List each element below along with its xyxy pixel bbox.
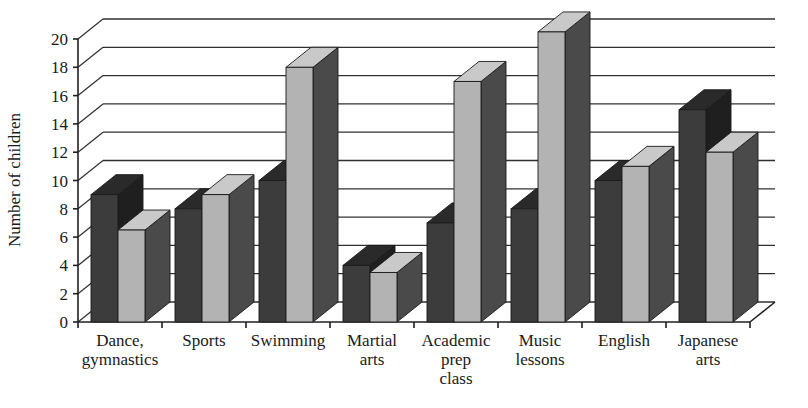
y-tick-label: 6 — [60, 228, 69, 247]
bar-front-face — [91, 195, 118, 322]
bar-series-light — [622, 146, 674, 322]
gridline-connector — [78, 104, 103, 124]
gridline-connector — [78, 76, 103, 96]
y-tick-label: 14 — [51, 115, 69, 134]
x-category-label: arts — [696, 350, 721, 369]
y-tick-label: 12 — [51, 143, 68, 162]
bar-front-face — [511, 209, 538, 322]
y-axis-title: Number of children — [5, 112, 24, 247]
bar-front-face — [679, 110, 706, 322]
bar-front-face — [427, 223, 454, 322]
x-category-label: class — [439, 369, 472, 388]
bar-front-face — [343, 265, 370, 322]
x-category-label: gymnastics — [82, 350, 159, 369]
y-tick-label: 18 — [51, 58, 68, 77]
bar-series-light — [118, 210, 170, 322]
x-category-label: Japanese — [678, 331, 738, 350]
y-tick-label: 10 — [51, 172, 68, 191]
x-category-label: Dance, — [96, 331, 144, 350]
x-category-label: Swimming — [251, 331, 326, 350]
bar-front-face — [259, 181, 286, 323]
bar-side-face — [649, 146, 674, 322]
bars-group — [91, 12, 758, 322]
x-category-label: Sports — [182, 331, 225, 350]
bar-front-face — [118, 230, 145, 322]
bar-series-light — [706, 132, 758, 322]
x-category-label: arts — [360, 350, 385, 369]
bar-side-face — [565, 12, 590, 322]
bar-front-face — [595, 181, 622, 323]
bar-front-face — [706, 152, 733, 322]
gridline-connector — [78, 19, 103, 39]
x-tick-marks-group — [78, 322, 750, 328]
x-category-label: lessons — [515, 350, 564, 369]
gridline-connector — [78, 132, 103, 152]
y-tick-label: 4 — [60, 256, 69, 275]
gridline-connector — [78, 161, 103, 181]
bar-front-face — [454, 81, 481, 322]
y-tick-label: 0 — [60, 313, 69, 332]
bar-front-face — [286, 67, 313, 322]
bar-series-light — [454, 61, 506, 322]
bar-front-face — [370, 272, 397, 322]
bar-chart: 02468101214161820 Dance,gymnasticsSports… — [0, 0, 808, 408]
bar-front-face — [202, 195, 229, 322]
bar-side-face — [313, 47, 338, 322]
bar-series-light — [202, 175, 254, 322]
chart-container: 02468101214161820 Dance,gymnasticsSports… — [0, 0, 808, 408]
bar-side-face — [733, 132, 758, 322]
x-category-label: prep — [441, 350, 471, 369]
y-tick-label: 16 — [51, 87, 68, 106]
gridline-connector — [78, 47, 103, 67]
bar-side-face — [229, 175, 254, 322]
bar-front-face — [175, 209, 202, 322]
bar-side-face — [481, 61, 506, 322]
bar-front-face — [622, 166, 649, 322]
bar-front-face — [538, 32, 565, 322]
x-category-label: Music — [519, 331, 562, 350]
x-category-label: Academic — [422, 331, 491, 350]
category-labels-group: Dance,gymnasticsSportsSwimmingMartialart… — [82, 331, 738, 388]
bar-series-light — [538, 12, 590, 322]
y-tick-labels-group: 02468101214161820 — [51, 30, 78, 332]
y-axis-title-group: Number of children — [5, 112, 24, 247]
bar-series-light — [286, 47, 338, 322]
y-tick-label: 2 — [60, 285, 69, 304]
x-category-label: Martial — [347, 331, 397, 350]
x-category-label: English — [598, 331, 650, 350]
y-tick-label: 20 — [51, 30, 68, 49]
y-tick-label: 8 — [60, 200, 69, 219]
